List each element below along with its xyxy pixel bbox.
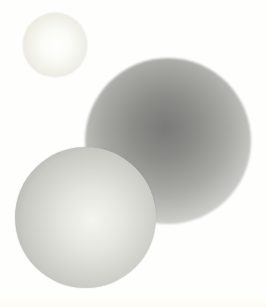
front-light-sphere [15, 147, 156, 288]
bottom-tint-strip [0, 297, 266, 307]
small-light-sphere [23, 13, 87, 77]
scene-canvas [0, 0, 266, 307]
